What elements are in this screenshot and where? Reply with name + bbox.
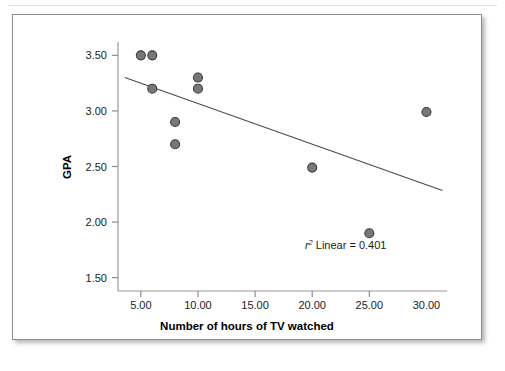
data-point <box>171 118 180 127</box>
x-axis-title: Number of hours of TV watched <box>160 320 334 332</box>
x-tick-label: 30.00 <box>413 299 441 311</box>
data-point <box>193 73 202 82</box>
x-tick-label: 20.00 <box>298 299 326 311</box>
scatter-plot: 3.50 3.00 2.50 2.00 1.50 5.00 10.00 15.0… <box>13 15 481 339</box>
r-squared-value: Linear = 0.401 <box>313 239 387 251</box>
x-tick-label: 5.00 <box>130 299 151 311</box>
y-tick-label: 1.50 <box>86 272 107 284</box>
x-tick-label: 15.00 <box>241 299 269 311</box>
data-points <box>136 51 431 238</box>
y-axis-tick-labels: 3.50 3.00 2.50 2.00 1.50 <box>86 49 107 283</box>
x-tick-label: 25.00 <box>356 299 384 311</box>
data-point <box>148 84 157 93</box>
y-axis-ticks <box>112 55 118 277</box>
y-axis-title: GPA <box>61 155 73 179</box>
data-point <box>136 51 145 60</box>
y-tick-label: 2.50 <box>86 161 107 173</box>
data-point <box>148 51 157 60</box>
data-point <box>365 229 374 238</box>
data-point <box>193 84 202 93</box>
x-axis-tick-labels: 5.00 10.00 15.00 20.00 25.00 30.00 <box>130 299 440 311</box>
y-tick-label: 2.00 <box>86 216 107 228</box>
top-divider <box>8 5 497 6</box>
data-point <box>422 108 431 117</box>
data-point <box>171 140 180 149</box>
regression-line <box>125 78 443 191</box>
y-tick-label: 3.50 <box>86 49 107 61</box>
x-tick-label: 10.00 <box>184 299 212 311</box>
y-tick-label: 3.00 <box>86 105 107 117</box>
chart-card: 3.50 3.00 2.50 2.00 1.50 5.00 10.00 15.0… <box>12 14 482 340</box>
r-squared-annotation: r2 Linear = 0.401 <box>305 238 387 251</box>
x-axis-ticks <box>141 291 369 297</box>
page-root: 3.50 3.00 2.50 2.00 1.50 5.00 10.00 15.0… <box>0 0 505 371</box>
data-point <box>308 163 317 172</box>
